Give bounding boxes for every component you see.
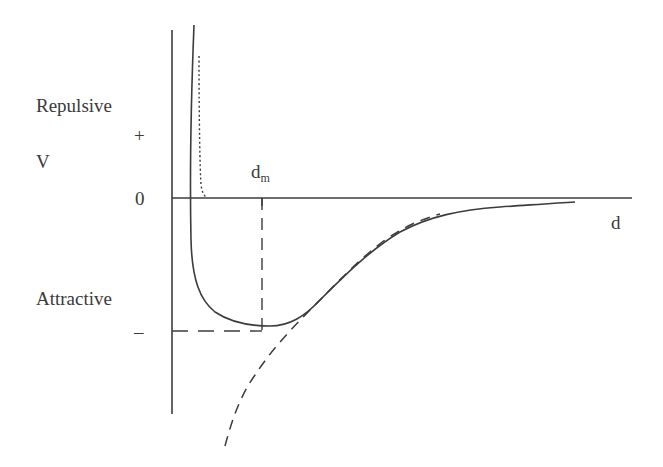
repulsive-label: Repulsive [36,96,112,115]
v-axis-label: V [36,152,50,171]
total-potential-curve [191,25,575,326]
plot-area [0,0,663,467]
repulsive-term-curve [199,56,207,198]
dm-subscript: m [261,171,270,185]
minus-tick-label: – [134,322,144,341]
attractive-term-curve [225,214,440,446]
zero-tick-label: 0 [135,189,145,208]
potential-energy-diagram: Repulsive + V 0 Attractive – d dm [0,0,663,467]
d-axis-label: d [611,213,621,232]
plus-tick-label: + [134,126,145,145]
dm-label: dm [251,162,270,184]
dm-base: d [251,161,261,182]
attractive-label: Attractive [36,289,112,308]
